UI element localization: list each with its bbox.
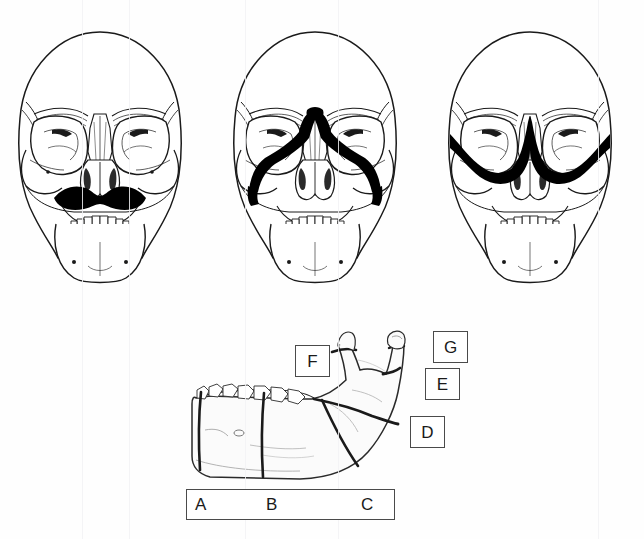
label-f: F [307,353,317,370]
le-fort-i-skull [19,32,181,283]
le-fort-ii-skull [234,32,396,283]
anatomy-figure: F G E D A B C [0,0,644,539]
label-a: A [195,495,206,515]
label-b: B [266,495,277,515]
condylar-head [388,331,405,349]
label-box-f[interactable]: F [295,345,330,377]
scan-artifact-line [82,0,83,539]
label-d: D [421,424,433,441]
scan-artifact-line [245,0,246,539]
label-g: G [444,339,457,356]
label-box-g[interactable]: G [433,331,468,363]
figure-canvas [0,0,644,539]
label-e: E [437,376,448,393]
label-bar-abc[interactable]: A B C [186,489,395,520]
le-fort-iii-skull [449,32,611,283]
scan-artifact-line [338,0,339,539]
scan-artifact-line [129,0,130,539]
label-box-e[interactable]: E [425,368,460,400]
scan-artifact-line [598,0,599,539]
label-c: C [361,495,373,515]
label-box-d[interactable]: D [410,416,445,448]
